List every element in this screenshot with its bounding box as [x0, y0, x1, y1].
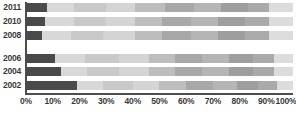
bar-segment	[26, 3, 47, 12]
bar-segment	[245, 17, 269, 26]
category-label-2006: 2006	[3, 54, 21, 63]
x-tick-label-0: 0%	[20, 96, 32, 106]
bar-segment	[149, 54, 176, 63]
category-label-2011: 2011	[3, 3, 21, 12]
bar-segment	[175, 67, 202, 76]
bar-segment	[119, 67, 148, 76]
x-tick-label-10: 10%	[44, 96, 60, 106]
x-tick-label-40: 40%	[125, 96, 141, 106]
bar-segment	[269, 3, 293, 12]
bar-segment	[248, 3, 269, 12]
x-tick-label-60: 60%	[178, 96, 194, 106]
bar-segment	[191, 31, 218, 40]
bar-segment	[175, 54, 202, 63]
category-label-2010: 2010	[3, 17, 21, 26]
bar-segment	[221, 3, 248, 12]
bar-segment	[135, 31, 162, 40]
bar-segment	[191, 17, 218, 26]
bar-segment	[85, 54, 120, 63]
bar-segment	[42, 31, 71, 40]
bar-segment	[159, 81, 186, 90]
bar-segment	[218, 17, 245, 26]
bar-segment	[237, 81, 258, 90]
category-axis-labels: 201120102008200620042002	[0, 2, 23, 94]
bar-2008	[26, 31, 293, 40]
bar-segment	[74, 3, 106, 12]
bar-segment	[45, 17, 74, 26]
bar-segment	[26, 54, 55, 63]
x-tick-label-30: 30%	[98, 96, 114, 106]
bar-segment	[229, 54, 253, 63]
bar-segment	[274, 67, 293, 76]
category-label-2002: 2002	[3, 81, 21, 90]
bar-segment	[119, 54, 148, 63]
bar-segment	[202, 67, 229, 76]
bar-segment	[47, 3, 74, 12]
bar-segment	[229, 67, 253, 76]
bar-segment	[258, 81, 277, 90]
category-label-2008: 2008	[3, 31, 21, 40]
bar-2011	[26, 3, 293, 12]
bar-segment	[26, 81, 77, 90]
stacked-bar-chart: 201120102008200620042002 0%10%20%30%40%5…	[0, 0, 296, 114]
bar-segment	[245, 31, 269, 40]
bar-2010	[26, 17, 293, 26]
bar-segment	[26, 67, 61, 76]
bar-segment	[253, 67, 274, 76]
bar-segment	[87, 67, 119, 76]
bar-segment	[213, 81, 237, 90]
bar-segment	[106, 17, 135, 26]
bar-segment	[71, 31, 103, 40]
x-tick-label-20: 20%	[71, 96, 87, 106]
x-tick-label-80: 80%	[231, 96, 247, 106]
bar-segment	[194, 3, 221, 12]
bar-segment	[253, 54, 274, 63]
bar-segment	[106, 3, 135, 12]
bar-segment	[218, 31, 245, 40]
x-tick-label-100: 100%	[276, 96, 296, 106]
bar-segment	[77, 81, 104, 90]
bar-segment	[202, 54, 229, 63]
bar-segment	[162, 17, 191, 26]
x-tick-label-70: 70%	[205, 96, 221, 106]
bar-segment	[149, 67, 176, 76]
value-axis-labels: 0%10%20%30%40%50%60%70%80%90%100%	[0, 96, 296, 112]
bar-segment	[135, 17, 162, 26]
bar-2002	[26, 81, 293, 90]
bar-segment	[103, 81, 132, 90]
bar-segment	[133, 81, 160, 90]
bar-segment	[162, 31, 191, 40]
bar-segment	[74, 17, 106, 26]
bar-segment	[135, 3, 164, 12]
bar-segment	[277, 81, 293, 90]
bar-segment	[186, 81, 213, 90]
bar-segment	[274, 54, 293, 63]
bar-segment	[165, 3, 194, 12]
plot-area	[26, 2, 293, 94]
x-tick-label-90: 90%	[258, 96, 274, 106]
bar-segment	[269, 31, 293, 40]
bar-segment	[103, 31, 135, 40]
bar-segment	[61, 67, 88, 76]
category-label-2004: 2004	[3, 67, 21, 76]
bar-2004	[26, 67, 293, 76]
bar-segment	[26, 17, 45, 26]
bar-segment	[269, 17, 293, 26]
bar-2006	[26, 54, 293, 63]
bar-segment	[26, 31, 42, 40]
bar-segment	[55, 54, 84, 63]
x-tick-label-50: 50%	[151, 96, 167, 106]
